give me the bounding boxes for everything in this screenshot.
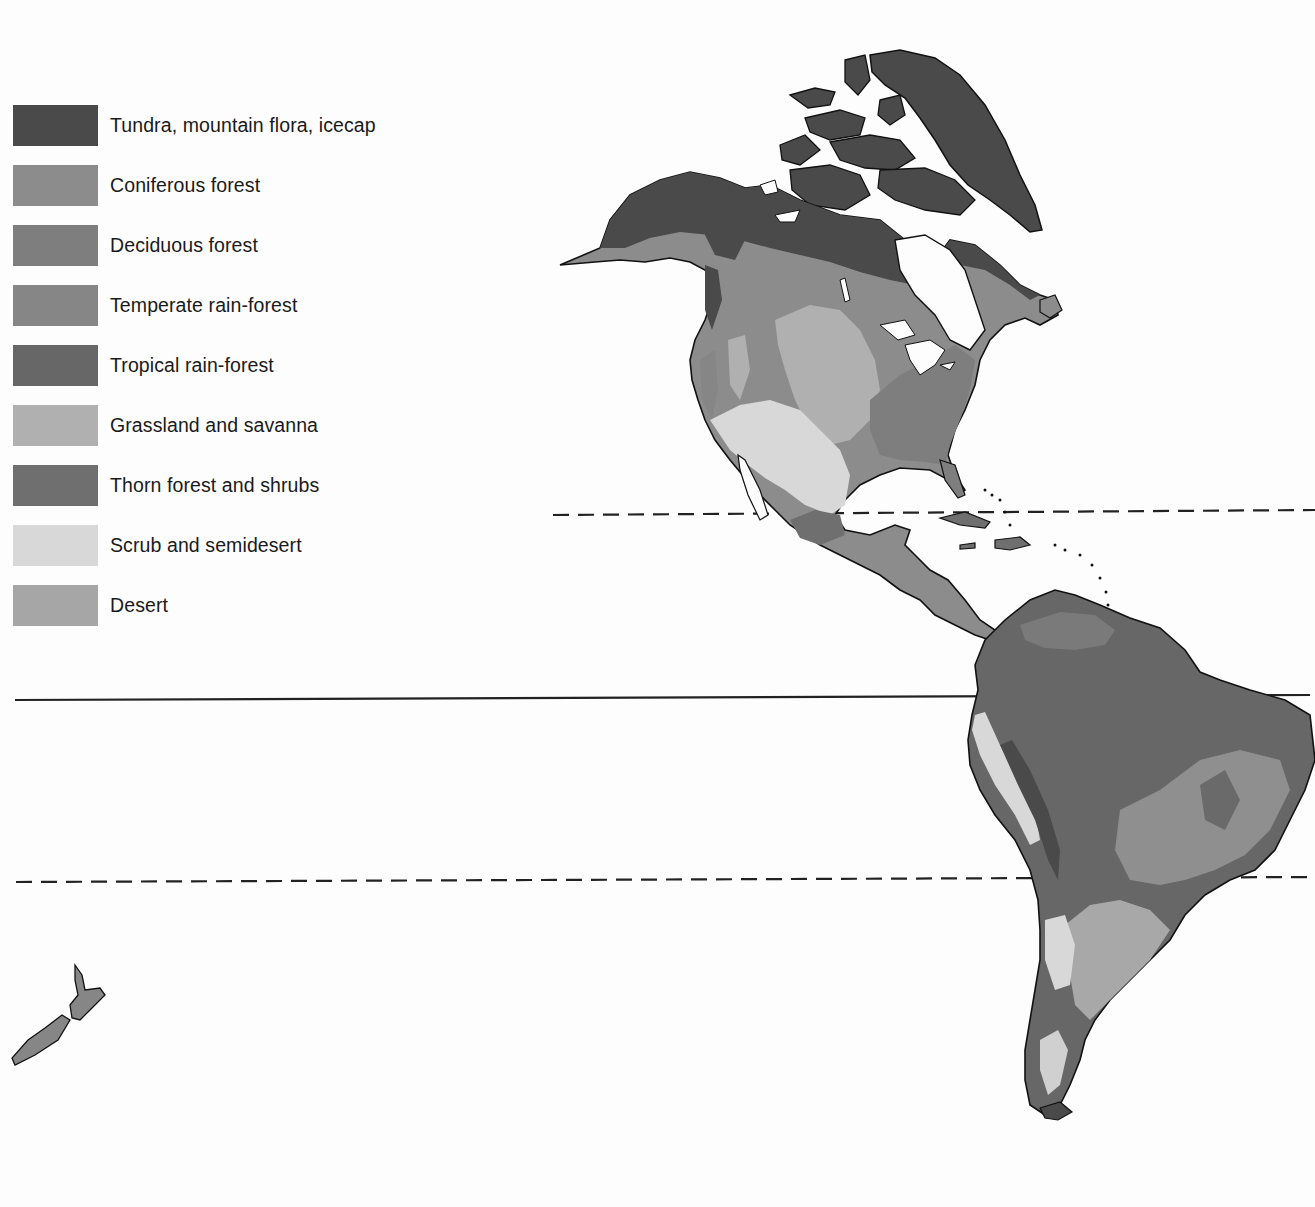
north-america: [560, 172, 1062, 640]
caribbean-islands: [940, 512, 1030, 550]
new-zealand: [12, 965, 105, 1065]
south-america: [968, 590, 1315, 1120]
tropic-of-cancer-line: [553, 510, 1315, 515]
vegetation-map: [0, 0, 1315, 1207]
